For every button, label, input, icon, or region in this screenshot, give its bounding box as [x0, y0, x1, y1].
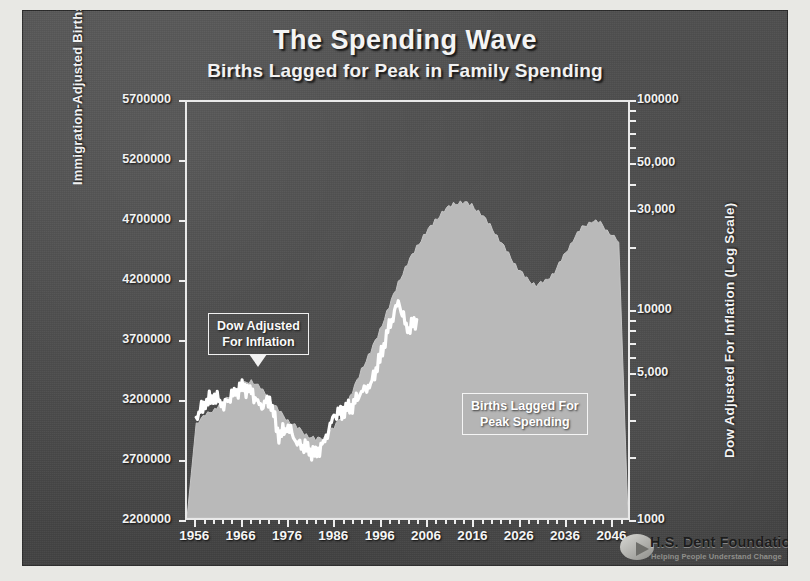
annotation-pointer-icon: [249, 354, 267, 367]
y-axis-left-tick-label: 4200000: [122, 272, 171, 286]
y-axis-right-tick-mark: [629, 343, 636, 345]
y-axis-left-tick-label: 5700000: [122, 92, 171, 106]
x-axis-tick-mark: [565, 519, 567, 527]
y-axis-right-tick-mark: [629, 457, 636, 459]
y-axis-right-tick-mark: [629, 184, 636, 186]
x-axis-tick-mark: [472, 519, 474, 527]
logo-tagline: Helping People Understand Change: [651, 552, 782, 561]
x-axis-tick-mark: [333, 519, 335, 527]
y-axis-right-tick-label: 50,000: [637, 155, 675, 169]
x-axis-tick-label: 2016: [457, 528, 487, 543]
y-axis-right-tick-mark: [629, 310, 636, 312]
y-axis-right-tick-label: 10000: [637, 302, 672, 316]
y-axis-right-tick-label: 100000: [637, 92, 679, 106]
y-axis-right-tick-mark: [629, 110, 636, 112]
organization-logo: H.S. Dent Foundation Helping People Unde…: [620, 528, 788, 566]
x-axis-tick-label: 1996: [365, 528, 395, 543]
slide-frame: The Spending Wave Births Lagged for Peak…: [0, 0, 810, 581]
x-axis-tick-label: 2036: [550, 528, 580, 543]
page-title: The Spending Wave: [22, 25, 788, 56]
x-axis-tick-label: 1956: [179, 528, 209, 543]
y-axis-right-tick-mark: [629, 163, 636, 165]
annotation-dow-line1: Dow Adjusted: [217, 318, 300, 334]
y-axis-left-tick-label: 2200000: [122, 512, 171, 526]
x-axis-tick-mark: [519, 519, 521, 527]
logo-name: H.S. Dent Foundation: [650, 534, 788, 550]
y-axis-right-tick-mark: [629, 320, 636, 322]
dow-line-series: [187, 102, 628, 518]
annotation-dow-adjusted: Dow Adjusted For Inflation: [208, 313, 309, 355]
presentation-slide: The Spending Wave Births Lagged for Peak…: [22, 10, 788, 566]
x-axis-tick-label: 1966: [226, 528, 256, 543]
y-axis-right-tick-mark: [629, 120, 636, 122]
x-axis-tick-label: 2006: [411, 528, 441, 543]
page-subtitle: Births Lagged for Peak in Family Spendin…: [22, 60, 788, 82]
y-axis-right-tick-mark: [629, 357, 636, 359]
x-axis-tick-mark: [194, 519, 196, 527]
y-axis-right-tick-mark: [629, 210, 636, 212]
x-axis-tick-label: 2026: [504, 528, 534, 543]
y-axis-left-tick-label: 4700000: [122, 212, 171, 226]
y-axis-right-tick-label: 30,000: [637, 202, 675, 216]
y-axis-left-title: Immigration-Adjusted Births: [70, 10, 85, 185]
logo-arrow-icon: [636, 542, 649, 556]
x-axis-tick-mark: [611, 519, 613, 527]
y-axis-right-tick-mark: [629, 100, 636, 102]
y-axis-right-tick-label: 5,000: [637, 365, 668, 379]
annotation-births-lagged: Births Lagged For Peak Spending: [462, 393, 588, 435]
x-axis-tick-label: 1986: [318, 528, 348, 543]
y-axis-left-tick-label: 5200000: [122, 152, 171, 166]
y-axis-right-tick-mark: [629, 133, 636, 135]
y-axis-right-tick-mark: [629, 247, 636, 249]
y-axis-left-tick-label: 3700000: [122, 332, 171, 346]
y-axis-left-tick-mark: [179, 520, 186, 522]
x-axis-tick-mark: [380, 519, 382, 527]
x-axis-tick-mark: [287, 519, 289, 527]
y-axis-left-tick-label: 2700000: [122, 452, 171, 466]
y-axis-left-tick-label: 3200000: [122, 392, 171, 406]
y-axis-right-tick-mark: [629, 420, 636, 422]
y-axis-right-tick-mark: [629, 394, 636, 396]
annotation-births-line1: Births Lagged For: [471, 398, 579, 414]
y-axis-right-tick-mark: [629, 330, 636, 332]
chart-plot-area: [185, 100, 630, 520]
y-axis-right-tick-mark: [629, 520, 636, 522]
y-axis-right-tick-label: 1000: [637, 512, 665, 526]
y-axis-right-tick-mark: [629, 147, 636, 149]
annotation-dow-line2: For Inflation: [217, 334, 300, 350]
x-axis-tick-label: 1976: [272, 528, 302, 543]
x-axis-tick-mark: [426, 519, 428, 527]
x-axis-tick-mark: [241, 519, 243, 527]
y-axis-right-tick-mark: [629, 373, 636, 375]
annotation-births-line2: Peak Spending: [471, 414, 579, 430]
y-axis-right-title: Dow Adjusted For Inflation (Log Scale): [722, 118, 737, 458]
